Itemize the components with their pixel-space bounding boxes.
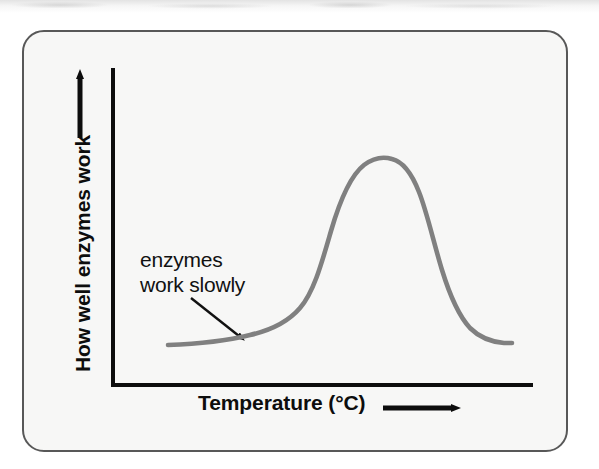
y-axis-label: How well enzymes work — [72, 72, 93, 372]
x-axis-label: Temperature (°C) — [198, 392, 365, 413]
scan-artifact-band — [0, 0, 599, 13]
figure-panel — [22, 30, 568, 452]
annotation-label: enzymes work slowly — [140, 248, 245, 298]
